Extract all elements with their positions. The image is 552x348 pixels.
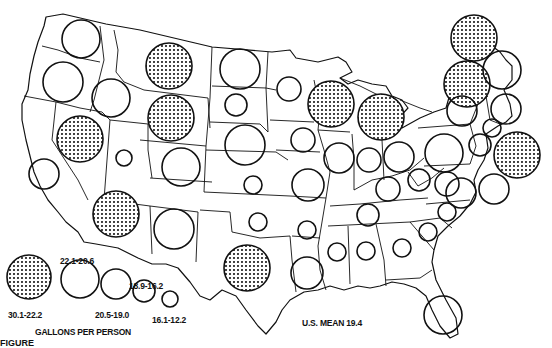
state-symbol-ga bbox=[393, 239, 411, 257]
legend-symbol-highest bbox=[7, 255, 51, 299]
legend-symbol-middle bbox=[101, 269, 131, 299]
state-symbol-la bbox=[291, 257, 323, 289]
state-symbol-al bbox=[357, 242, 375, 260]
state-symbol-ut bbox=[116, 150, 132, 166]
state-symbol-id bbox=[92, 79, 130, 117]
state-symbol-mi bbox=[358, 94, 404, 140]
state-symbol-sc bbox=[419, 223, 437, 241]
state-symbol-ia bbox=[291, 128, 315, 152]
state-symbol-wi bbox=[308, 81, 354, 127]
state-symbol-ne bbox=[225, 125, 265, 165]
state-symbol-nv bbox=[57, 116, 103, 162]
state-symbol-wy bbox=[148, 95, 194, 141]
state-symbol-de bbox=[479, 174, 509, 204]
state-symbol-vt bbox=[447, 96, 477, 126]
state-symbol-wv bbox=[408, 169, 430, 191]
legend-label-lowest: 16.1-12.2 bbox=[152, 315, 186, 325]
state-symbol-oh bbox=[384, 142, 414, 172]
state-symbol-mo bbox=[292, 169, 324, 201]
state-symbol-il bbox=[324, 143, 354, 173]
state-symbol-nd bbox=[220, 49, 260, 89]
state-symbol-ok bbox=[249, 213, 267, 231]
state-symbol-pa bbox=[425, 134, 463, 172]
state-symbol-ms bbox=[328, 243, 346, 261]
state-symbol-tn bbox=[357, 204, 379, 226]
state-symbol-ca bbox=[29, 159, 59, 189]
state-symbol-tx bbox=[224, 245, 270, 291]
figure-caption: FIGURE bbox=[0, 338, 34, 348]
state-symbol-nj bbox=[469, 134, 491, 156]
state-symbol-az bbox=[93, 191, 139, 237]
state-symbol-me bbox=[451, 15, 497, 61]
state-symbol-mn bbox=[277, 77, 301, 101]
legend-title: GALLONS PER PERSON bbox=[35, 327, 131, 337]
legend-symbol-lowest bbox=[162, 291, 178, 307]
state-symbol-wa bbox=[62, 20, 100, 58]
state-symbol-mt bbox=[146, 43, 192, 89]
legend-label-high: 22.1-20.6 bbox=[60, 256, 94, 266]
state-symbol-sd bbox=[225, 94, 247, 116]
us-mean-label: U.S. MEAN 19.4 bbox=[302, 318, 362, 328]
state-symbol-ct bbox=[483, 119, 501, 137]
state-symbol-co bbox=[162, 148, 200, 186]
state-symbol-or bbox=[43, 62, 83, 102]
legend-label-low: 18.9-16.2 bbox=[129, 281, 163, 291]
legend-label-middle: 20.5-19.0 bbox=[95, 310, 129, 320]
state-symbol-ar bbox=[298, 221, 316, 239]
state-symbol-md bbox=[446, 178, 476, 208]
state-symbol-ri bbox=[494, 132, 540, 178]
state-symbol-nh bbox=[483, 51, 521, 89]
state-symbol-ks bbox=[244, 176, 262, 194]
state-symbol-in bbox=[357, 148, 381, 172]
state-symbol-fl bbox=[424, 296, 462, 334]
state-symbol-nm bbox=[154, 209, 194, 249]
legend-label-highest: 30.1-22.2 bbox=[8, 310, 42, 320]
state-symbol-ky bbox=[376, 177, 400, 201]
